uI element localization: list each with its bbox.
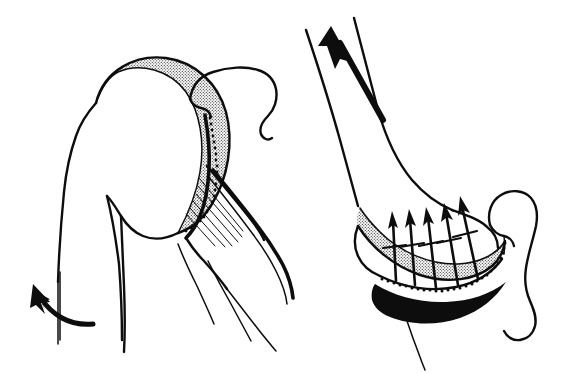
acromion-hook-tip-line — [504, 236, 505, 254]
figure-root: Rotator Cuff Repair — Two Panel Line Dra… — [0, 0, 566, 373]
canvas-background — [0, 0, 566, 373]
illustration-canvas — [0, 0, 566, 373]
